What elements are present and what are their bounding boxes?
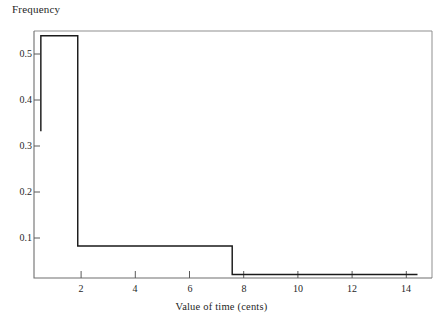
- x-tick-label-4: 4: [122, 283, 148, 295]
- x-tick-label-8: 8: [231, 283, 257, 295]
- x-tick-label-2: 2: [68, 283, 94, 295]
- plot-area: [0, 0, 443, 327]
- y-tick-label-0.1: 0.1: [6, 232, 32, 244]
- x-tick-label-10: 10: [285, 283, 311, 295]
- y-tick-label-0.5: 0.5: [6, 48, 32, 60]
- x-axis-title: Value of time (cents): [0, 300, 443, 313]
- frame-top-right: [34, 31, 432, 278]
- y-tick-label-0.3: 0.3: [6, 140, 32, 152]
- y-tick-label-0.4: 0.4: [6, 94, 32, 106]
- x-tick-label-12: 12: [339, 283, 365, 295]
- axis-frame: [34, 31, 432, 278]
- x-tick-label-14: 14: [393, 283, 419, 295]
- chart-figure: Frequency 0.5 0.4 0.3: [0, 0, 443, 327]
- x-tick-label-6: 6: [177, 283, 203, 295]
- y-tick-label-0.2: 0.2: [6, 186, 32, 198]
- frame-left-bottom: [34, 31, 432, 278]
- frequency-step-curve: [41, 36, 418, 275]
- y-tick-marks: [34, 54, 40, 238]
